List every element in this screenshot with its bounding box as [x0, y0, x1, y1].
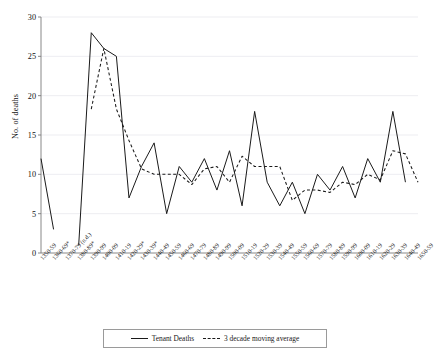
legend-item-tenant-deaths: Tenant Deaths — [131, 334, 194, 343]
chart-legend: Tenant Deaths 3 decade moving average — [103, 329, 327, 348]
solid-line-icon — [131, 338, 148, 339]
legend-label: 3 decade moving average — [224, 334, 299, 343]
legend-item-moving-average: 3 decade moving average — [203, 334, 299, 343]
dashed-line-icon — [203, 338, 220, 339]
legend-label: Tenant Deaths — [152, 334, 194, 343]
